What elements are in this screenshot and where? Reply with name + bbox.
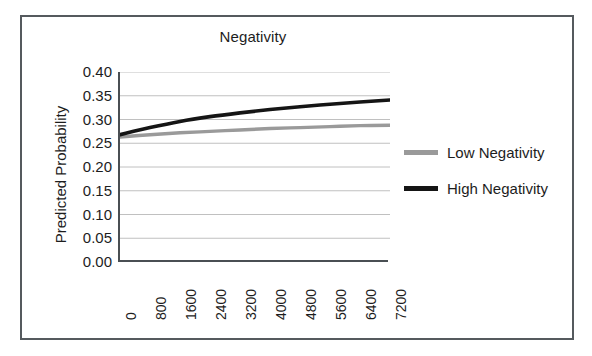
chart-title: Negativity	[118, 28, 388, 45]
legend-swatch-icon	[404, 186, 438, 191]
plot-canvas	[120, 72, 390, 262]
x-axis-tick-label: 800	[153, 297, 169, 320]
x-axis-tick-labels: 080016002400320040004800560064007200	[118, 262, 388, 332]
y-axis-tick-label: 0.40	[56, 64, 112, 80]
x-axis-tick-label: 5600	[333, 289, 349, 320]
y-axis-tick-label: 0.10	[56, 207, 112, 223]
x-axis-tick-label: 2400	[213, 289, 229, 320]
legend-swatch-icon	[404, 150, 438, 155]
y-axis-tick-label: 0.30	[56, 112, 112, 128]
y-axis-tick-label: 0.35	[56, 88, 112, 104]
y-axis-tick-label: 0.05	[56, 230, 112, 246]
plot-area	[118, 72, 388, 262]
gridlines	[120, 72, 390, 238]
x-axis-tick-label: 1600	[183, 289, 199, 320]
chart-legend: Low NegativityHigh Negativity	[404, 138, 564, 210]
chart-figure: Negativity Predicted Probability 0.400.3…	[0, 0, 592, 356]
y-axis-tick-label: 0.25	[56, 135, 112, 151]
x-axis-tick-label: 7200	[393, 289, 409, 320]
x-axis-tick-label: 3200	[243, 289, 259, 320]
legend-item[interactable]: High Negativity	[404, 174, 564, 202]
y-axis-tick-label: 0.00	[56, 254, 112, 270]
legend-item-label: High Negativity	[447, 180, 548, 197]
x-axis-tick-label: 6400	[363, 289, 379, 320]
x-axis-tick-label: 4000	[273, 289, 289, 320]
x-axis-tick-label: 0	[123, 312, 139, 320]
y-axis-tick-label: 0.20	[56, 159, 112, 175]
legend-item-label: Low Negativity	[447, 144, 545, 161]
x-axis-tick-label: 4800	[303, 289, 319, 320]
legend-item[interactable]: Low Negativity	[404, 138, 564, 166]
y-axis-tick-labels: 0.400.350.300.250.200.150.100.050.00	[56, 64, 112, 270]
y-axis-tick-label: 0.15	[56, 183, 112, 199]
data-series-group	[120, 100, 390, 137]
